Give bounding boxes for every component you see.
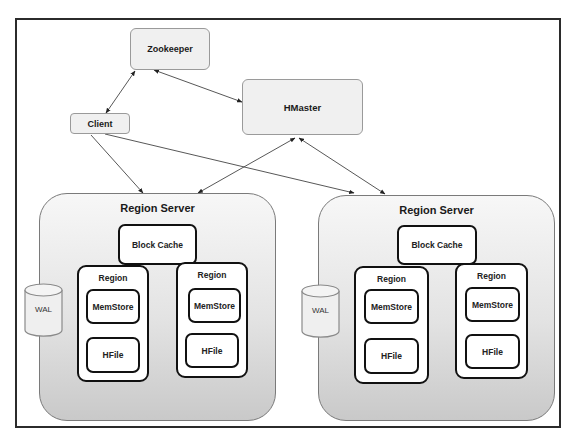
block-cache-label: Block Cache (411, 240, 462, 250)
memstore-label: MemStore (371, 302, 412, 312)
wal-label: WAL (24, 305, 63, 314)
block-cache: Block Cache (397, 225, 477, 265)
edge-zookeeper-hmaster (154, 70, 242, 102)
client-label: Client (87, 119, 112, 129)
region-title: Region (457, 271, 526, 281)
region-1-1: Region MemStore HFile (77, 265, 149, 382)
hmaster-label: HMaster (284, 102, 322, 113)
memstore-box: MemStore (364, 289, 419, 324)
hmaster-node: HMaster (242, 79, 363, 135)
region-server-title: Region Server (319, 204, 554, 216)
region-title: Region (356, 274, 427, 284)
zookeeper-label: Zookeeper (147, 44, 193, 54)
region-server-title: Region Server (40, 202, 275, 214)
memstore-box: MemStore (465, 287, 520, 322)
hfile-box: HFile (465, 334, 520, 369)
edge-client-regionserver2 (105, 134, 354, 193)
region-2-2: Region MemStore HFile (455, 263, 528, 379)
hfile-label: HFile (482, 347, 503, 357)
hfile-box: HFile (185, 333, 239, 368)
edge-zookeeper-client (106, 71, 135, 113)
memstore-label: MemStore (194, 301, 235, 311)
memstore-box: MemStore (86, 289, 140, 324)
zookeeper-node: Zookeeper (130, 28, 210, 70)
edge-client-regionserver1 (91, 135, 143, 193)
hfile-box: HFile (86, 337, 140, 373)
hfile-label: HFile (202, 346, 223, 356)
memstore-label: MemStore (472, 300, 513, 310)
wal-label: WAL (301, 306, 340, 315)
region-2-1: Region MemStore HFile (354, 266, 429, 384)
hfile-label: HFile (381, 351, 402, 361)
region-1-2: Region MemStore HFile (176, 262, 248, 378)
hfile-box: HFile (364, 338, 419, 374)
hfile-label: HFile (103, 350, 124, 360)
edge-hmaster-regionserver1 (198, 138, 295, 193)
memstore-box: MemStore (188, 288, 241, 323)
edge-hmaster-regionserver2 (299, 138, 385, 194)
memstore-label: MemStore (92, 302, 133, 312)
block-cache-label: Block Cache (132, 240, 183, 250)
client-node: Client (70, 113, 130, 134)
block-cache: Block Cache (118, 224, 197, 265)
region-title: Region (178, 270, 246, 280)
region-title: Region (79, 273, 147, 283)
